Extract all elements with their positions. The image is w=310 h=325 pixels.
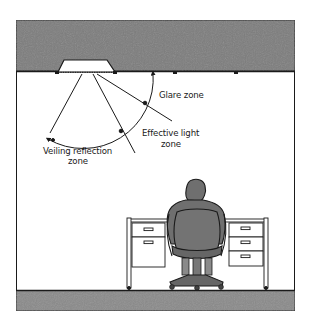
effective-light-label-line2: zone [161,139,181,149]
fixture-recess [58,60,115,72]
person-leg-left [182,258,189,275]
arc-tick-veiling [52,139,55,142]
ceiling-marker [173,71,177,74]
ceiling [16,20,295,74]
drawer-handle [144,241,153,244]
fixture-bracket-right [113,71,117,74]
fixture-bracket-left [55,71,59,74]
glare-zone-label: Glare zone [159,90,204,100]
desk-leg-right [264,218,268,288]
person-head [186,179,206,201]
floor [16,290,295,311]
light-zones [48,73,172,153]
veiling-boundary-line [50,74,82,133]
ceiling-marker [234,71,238,74]
veiling-reflection-label-line1: Veiling reflection [43,146,112,156]
person-leg-right [205,258,212,275]
desk-pedestal-right [229,223,263,266]
desk-glide-left [127,286,130,289]
chair-back [174,209,220,253]
arc-tick-glare [143,101,147,105]
lighting-zones-diagram: Glare zone Effective light zone Veiling … [0,0,310,325]
desk-leg-left [127,218,131,288]
chair-caster [219,285,224,290]
floor-slab [16,290,295,311]
drawer-handle [144,228,153,231]
light-fixture [55,60,117,74]
drawer-handle [241,255,250,258]
seated-worker [167,179,225,290]
chair-base [170,275,223,286]
arc-tick-effective [119,129,123,133]
drawer-handle [241,227,250,230]
chair-caster [170,285,175,290]
zone-arc [48,73,153,149]
drawer-handle [241,241,250,244]
veiling-reflection-label-line2: zone [68,156,88,166]
desk-pedestal-left [132,223,165,267]
drawer [229,251,263,266]
ceiling-slab [16,20,295,71]
effective-light-label-line1: Effective light [142,128,200,138]
desk-glide-right [264,286,267,289]
